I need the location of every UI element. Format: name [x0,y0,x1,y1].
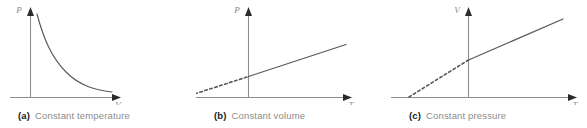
y-axis-label-b: P [233,5,240,15]
caption-tag-b: (b) [214,110,227,121]
caption-text-c: Constant pressure [426,110,506,121]
isochor-extrapolation [196,77,249,98]
panel-constant-pressure: V T (c)Constant pressure [391,0,587,128]
caption-b: (b)Constant volume [196,106,392,126]
caption-c: (c)Constant pressure [391,106,587,126]
caption-tag-a: (a) [18,110,30,121]
isobar-extrapolation [409,60,469,97]
gas-laws-figure: P V (a)Constant temperature P T (b)Const… [0,0,587,128]
caption-a: (a)Constant temperature [0,106,196,126]
caption-text-b: Constant volume [232,110,306,121]
plot-area-b: P T [196,0,392,105]
y-axis-label-a: P [15,5,22,15]
y-axis-arrowhead-a [27,7,34,16]
y-axis-arrowhead-c [465,7,472,16]
isobar-line [469,19,564,60]
isochor-line [249,45,347,77]
x-axis-label-c: T [572,100,578,105]
isotherm-curve [37,14,112,92]
caption-text-a: Constant temperature [35,110,130,121]
panel-constant-temperature: P V (a)Constant temperature [0,0,196,128]
x-axis-label-a: V [115,100,122,105]
caption-tag-c: (c) [409,110,421,121]
plot-area-c: V T [391,0,587,105]
panel-constant-volume: P T (b)Constant volume [196,0,392,128]
y-axis-label-c: V [454,5,461,15]
plot-area-a: P V [0,0,196,105]
x-axis-label-b: T [348,100,354,105]
y-axis-arrowhead-b [245,7,252,16]
